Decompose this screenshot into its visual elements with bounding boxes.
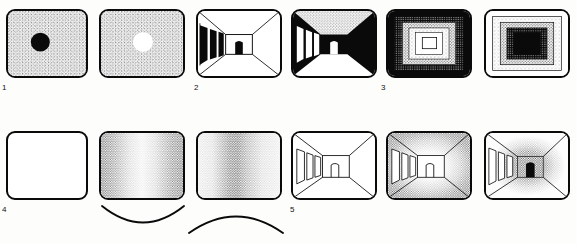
figure-sheet: 1 2 3 4 5 [0, 0, 577, 244]
panel-corridor-dark-edges [386, 131, 472, 200]
panel-dark-disc-on-stipple [6, 9, 88, 78]
far-doorway [330, 41, 338, 54]
corridor-inverted-diagram [293, 11, 375, 76]
panel-content [486, 11, 568, 76]
panel-gradient-dark-centre [196, 131, 282, 200]
corridor-plain-diagram [293, 133, 375, 198]
frown-arc [186, 200, 286, 236]
panel-light-disc-on-stipple [99, 9, 185, 78]
light-disc [133, 32, 153, 52]
frown-arc-svg [186, 200, 286, 236]
panel-content [8, 133, 86, 198]
panel-content [388, 11, 470, 76]
panel-label-3: 3 [381, 84, 385, 92]
panel-label-1: 1 [2, 84, 6, 92]
centre-rect [519, 36, 534, 48]
concentric-light-outside-diagram [486, 11, 568, 76]
panel-concentric-light-outside [484, 9, 570, 78]
corridor-dark-edges-diagram [388, 133, 470, 198]
panel-content [293, 133, 375, 198]
smile-arc-svg [100, 203, 186, 237]
gradient-dark-centre-diagram [198, 133, 280, 198]
panel-content [293, 11, 375, 76]
panel-label-5: 5 [290, 206, 294, 214]
panel-content [101, 133, 183, 198]
far-doorway [526, 162, 535, 177]
panel-concentric-dark-outside [386, 9, 472, 78]
panel-content [198, 133, 280, 198]
panel-content [8, 11, 86, 76]
panel-content [101, 11, 183, 76]
panel-content [388, 133, 470, 198]
panel-label-4: 4 [2, 206, 6, 214]
panel-corridor-outline [196, 9, 282, 78]
dark-disc [31, 33, 50, 52]
gradient-light-centre-diagram [101, 133, 183, 198]
panel-content [198, 11, 280, 76]
panel-content [486, 133, 568, 198]
panel-corridor-plain-outline [291, 131, 377, 200]
panel-corridor-inverted [291, 9, 377, 78]
dark-disc-diagram [8, 11, 86, 76]
corridor-outline-diagram [198, 11, 280, 76]
panel-corridor-dark-end [484, 131, 570, 200]
light-disc-diagram [101, 11, 183, 76]
concentric-dark-outside-diagram [388, 11, 470, 76]
panel-label-2: 2 [194, 84, 198, 92]
smile-arc [100, 203, 186, 237]
centre-rect [422, 37, 436, 48]
panel-gradient-light-centre [99, 131, 185, 200]
corridor-dark-end-diagram [486, 133, 568, 198]
far-doorway [235, 41, 243, 54]
panel-blank [6, 131, 88, 200]
